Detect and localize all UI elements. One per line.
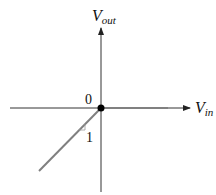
y-axis-label: Vout xyxy=(92,7,117,26)
x-axis-label: Vin xyxy=(195,99,214,118)
x-axis-label-sub: in xyxy=(205,106,214,118)
slope-label: 1 xyxy=(86,130,93,145)
transfer-characteristic-diagram: 0 1 Vout Vin xyxy=(0,0,216,195)
origin-label: 0 xyxy=(85,92,92,107)
origin-dot xyxy=(98,105,105,112)
y-axis-label-sub: out xyxy=(102,14,117,26)
